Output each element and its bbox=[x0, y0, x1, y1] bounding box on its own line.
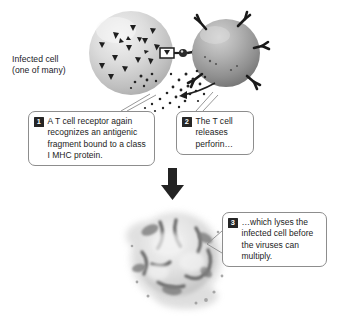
process-arrow-icon bbox=[161, 168, 184, 200]
step-text-3: …which lyses the infected cell before th… bbox=[242, 217, 322, 262]
infected-cell-label-line2: (one of many) bbox=[12, 65, 98, 76]
step-badge-1: 1 bbox=[34, 117, 44, 127]
figure-canvas: Infected cell (one of many) 1 A T cell r… bbox=[0, 0, 345, 323]
step-text-2: The T cell releases perforin… bbox=[196, 116, 249, 150]
step-text-1: A T cell receptor again recognizes an an… bbox=[48, 116, 150, 161]
mhc-complex-icon bbox=[160, 48, 196, 58]
callout-step-2: 2 The T cell releases perforin… bbox=[176, 111, 254, 155]
callout-step-1: 1 A T cell receptor again recognizes an … bbox=[28, 111, 155, 166]
step-badge-3: 3 bbox=[228, 218, 238, 228]
lysed-cell-icon bbox=[126, 212, 223, 309]
callout-step-3: 3 …which lyses the infected cell before … bbox=[222, 212, 327, 267]
infected-cell-label: Infected cell (one of many) bbox=[12, 54, 98, 77]
t-cell-icon bbox=[188, 12, 269, 89]
infected-cell-label-line1: Infected cell bbox=[12, 54, 59, 64]
step-badge-2: 2 bbox=[182, 117, 192, 127]
